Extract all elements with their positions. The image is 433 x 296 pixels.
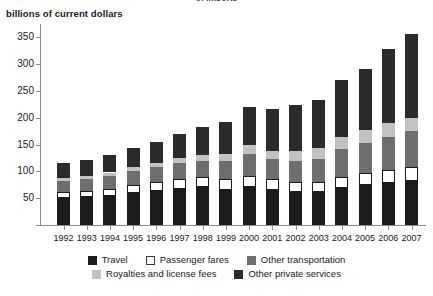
x-tick [249, 226, 250, 230]
bar-segment [359, 143, 372, 173]
bar-segment [103, 173, 116, 176]
bar-segment [405, 181, 418, 225]
x-tick [226, 226, 227, 230]
y-axis-tick-label: 300 [0, 59, 34, 69]
bar-stack [289, 105, 302, 225]
bar-segment [289, 105, 302, 150]
legend-swatch-royalties [92, 270, 101, 279]
x-axis-tick-label: 2007 [398, 233, 426, 243]
y-axis-tick-label: 200 [0, 113, 34, 123]
y-axis-tick-label: 150 [0, 140, 34, 150]
bar-segment [150, 163, 163, 167]
bar-segment [127, 167, 140, 171]
bar-segment [312, 192, 325, 225]
bar-segment [57, 198, 70, 225]
bar-segment [219, 179, 232, 190]
bar-segment [382, 183, 395, 225]
bar-segment [289, 182, 302, 192]
bar-segment [405, 131, 418, 166]
x-tick [87, 226, 88, 230]
bar-segment [266, 190, 279, 225]
bar-segment [312, 182, 325, 192]
x-tick [272, 226, 273, 230]
legend-swatch-other-transportation [247, 256, 256, 265]
clipped-header-text: of imports [0, 0, 433, 1]
bar-segment [127, 148, 140, 167]
bar-segment [359, 185, 372, 225]
x-tick [319, 226, 320, 230]
bar-segment [266, 109, 279, 150]
bar-segment [127, 185, 140, 193]
legend-row: Royalties and license feesOther private … [0, 267, 433, 281]
bar-stack [335, 80, 348, 225]
bar-stack [405, 34, 418, 225]
bar-segment [405, 34, 418, 118]
bar-stack [103, 155, 116, 225]
bar-segment [335, 188, 348, 225]
bar-segment [359, 173, 372, 185]
bar-segment [405, 167, 418, 181]
bar-segment [219, 122, 232, 154]
bar-segment [312, 148, 325, 159]
bar-stack [57, 163, 70, 225]
bar-segment [382, 49, 395, 124]
bar-segment [196, 155, 209, 161]
bar-segment [173, 179, 186, 189]
legend-item: Travel [88, 255, 128, 265]
legend-row: TravelPassenger faresOther transportatio… [0, 253, 433, 267]
bar-segment [80, 176, 93, 179]
bar-segment [127, 171, 140, 185]
bar-stack [196, 127, 209, 225]
y-axis-tick-label: 350 [0, 32, 34, 42]
x-tick [156, 226, 157, 230]
bar-segment [359, 69, 372, 130]
y-axis-tick-label: 100 [0, 166, 34, 176]
bar-stack [266, 109, 279, 225]
bar-segment [405, 118, 418, 131]
bar-segment [312, 100, 325, 148]
bar-segment [219, 190, 232, 225]
legend-swatch-travel [88, 256, 97, 265]
legend-swatch-passenger-fares [146, 256, 155, 265]
bar-segment [173, 158, 186, 163]
bar-segment [243, 187, 256, 225]
bar-segment [150, 167, 163, 182]
legend-label: Other transportation [261, 255, 346, 265]
bar-segment [196, 161, 209, 178]
bar-segment [289, 192, 302, 225]
bar-segment [243, 176, 256, 188]
y-axis-line [40, 24, 41, 226]
bar-segment [219, 154, 232, 161]
bar-stack [219, 122, 232, 225]
bar-segment [173, 163, 186, 179]
bar-segment [127, 193, 140, 225]
y-tick [36, 91, 40, 92]
x-tick [342, 226, 343, 230]
bar-stack [173, 134, 186, 225]
bar-segment [80, 197, 93, 225]
stacked-bar-chart: of imports billions of current dollars 5… [0, 0, 433, 296]
bar-stack [127, 148, 140, 225]
x-tick [133, 226, 134, 230]
bar-segment [289, 161, 302, 182]
x-tick [64, 226, 65, 230]
bar-stack [359, 69, 372, 225]
bar-segment [219, 161, 232, 179]
bar-stack [80, 160, 93, 225]
x-axis-line [40, 225, 426, 226]
y-tick [36, 145, 40, 146]
bar-segment [266, 151, 279, 160]
bar-segment [243, 107, 256, 146]
bar-segment [335, 149, 348, 176]
bar-segment [103, 176, 116, 189]
y-tick [36, 171, 40, 172]
bar-stack [150, 142, 163, 225]
bar-segment [57, 163, 70, 178]
legend-label: Royalties and license fees [106, 269, 216, 279]
legend-label: Passenger fares [160, 255, 229, 265]
bar-segment [359, 130, 372, 143]
bar-segment [80, 179, 93, 191]
bar-segment [196, 177, 209, 187]
bar-segment [243, 154, 256, 176]
bar-segment [103, 189, 116, 196]
